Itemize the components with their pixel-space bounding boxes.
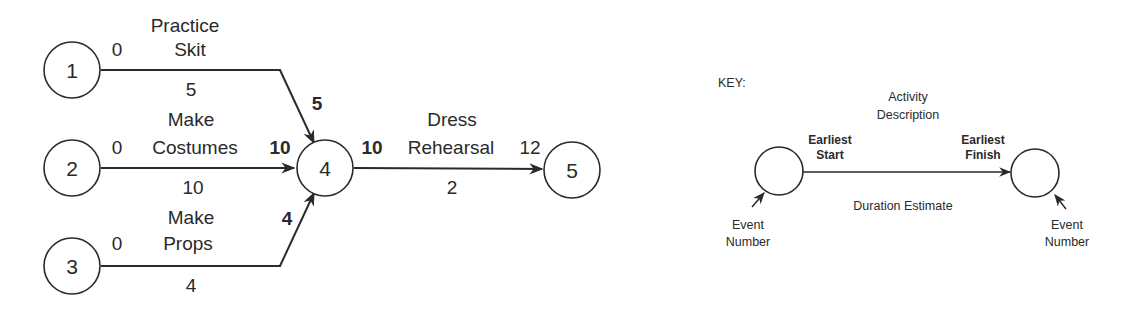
event-node-1: 1 (44, 42, 100, 98)
event-node-5: 5 (544, 142, 600, 198)
legend-key: KEY: Activity Description Earliest Start… (718, 76, 1089, 249)
legend-event-number: Number (726, 235, 770, 249)
svg-text:4: 4 (319, 157, 331, 180)
earliest-start: 0 (112, 137, 123, 158)
duration-estimate: 10 (182, 177, 203, 198)
activity-arrow-4-5 (354, 168, 542, 169)
svg-text:1: 1 (66, 59, 78, 82)
duration-estimate: 5 (186, 79, 197, 100)
activity-network-diagram: 1 2 3 4 5 Practice Skit 0 5 5 Make Costu… (0, 0, 1132, 314)
earliest-start: 0 (112, 39, 123, 60)
event-node-3: 3 (44, 238, 100, 294)
legend-duration-estimate: Duration Estimate (853, 199, 952, 213)
legend-activity-label: Activity (888, 90, 928, 104)
legend-earliest-finish: Earliest (961, 133, 1004, 147)
earliest-start: 10 (361, 137, 382, 158)
legend-earliest-finish: Finish (965, 148, 1000, 162)
activity-description: Practice (151, 15, 220, 36)
legend-activity-label: Description (877, 108, 940, 122)
activity-description: Skit (174, 39, 206, 60)
activity-description: Rehearsal (408, 137, 495, 158)
activity-description: Props (163, 233, 213, 254)
svg-text:5: 5 (566, 159, 578, 182)
event-node-2: 2 (44, 140, 100, 196)
activity-arrow-1-4 (101, 70, 314, 143)
earliest-finish: 4 (282, 208, 293, 229)
activity-description: Make (168, 109, 214, 130)
legend-title: KEY: (718, 76, 746, 90)
duration-estimate: 2 (447, 177, 458, 198)
legend-event-number: Event (732, 218, 764, 232)
activity-arrow-3-4 (101, 193, 314, 266)
earliest-finish: 12 (519, 137, 540, 158)
svg-text:2: 2 (66, 157, 78, 180)
duration-estimate: 4 (186, 275, 197, 296)
activity-description: Dress (427, 109, 477, 130)
event-node-4: 4 (297, 140, 353, 196)
legend-earliest-start: Earliest (808, 133, 851, 147)
svg-text:3: 3 (66, 255, 78, 278)
earliest-finish: 10 (269, 137, 290, 158)
legend-event-number: Event (1051, 218, 1083, 232)
earliest-finish: 5 (312, 93, 323, 114)
earliest-start: 0 (112, 233, 123, 254)
legend-earliest-start: Start (816, 148, 843, 162)
legend-event-number: Number (1045, 235, 1089, 249)
activity-description: Make (168, 207, 214, 228)
activity-description: Costumes (152, 137, 238, 158)
